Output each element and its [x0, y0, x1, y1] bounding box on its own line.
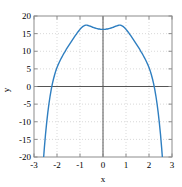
x-tick-label: 3: [170, 160, 175, 170]
line-chart: -3-2-10123 -20-15-10-505101520 x y: [0, 0, 182, 187]
y-tick-label: -20: [19, 152, 31, 162]
x-tick-label: 0: [101, 160, 106, 170]
y-tick-label: 20: [22, 11, 32, 21]
x-tick-label: -3: [30, 160, 38, 170]
x-tick-label: 2: [147, 160, 152, 170]
y-tick-label: 5: [27, 64, 32, 74]
y-tick-label: 0: [27, 82, 32, 92]
x-tick-label: 1: [124, 160, 129, 170]
y-axis-title: y: [1, 87, 11, 92]
y-tick-label: -15: [19, 135, 31, 145]
y-tick-label: 10: [22, 46, 32, 56]
x-tick-label: -1: [76, 160, 84, 170]
chart-figure: -3-2-10123 -20-15-10-505101520 x y: [0, 0, 182, 187]
y-tick-label: -5: [24, 99, 32, 109]
y-tick-label: -10: [19, 117, 31, 127]
y-tick-label: 15: [22, 29, 32, 39]
x-tick-label: -2: [53, 160, 61, 170]
x-axis-title: x: [101, 174, 106, 184]
